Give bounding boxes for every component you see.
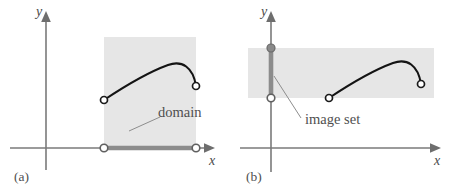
domain-right-endpoint [192, 144, 200, 152]
x-axis-label-a: x [208, 153, 216, 168]
panel-a: y x domain (a) [0, 0, 232, 195]
y-axis-arrowhead-b [266, 11, 276, 22]
y-axis-label-a: y [34, 4, 43, 19]
domain-annotation-label: domain [158, 104, 202, 120]
panel-b-plot: y x image set (b) [232, 0, 464, 195]
image-set-annotation-label: image set [305, 111, 360, 127]
panel-a-tag: (a) [14, 169, 29, 184]
curve-left-endpoint-b [326, 95, 333, 102]
curve-right-endpoint-a [193, 83, 200, 90]
figure-container: y x domain (a) [0, 0, 464, 195]
y-axis-label-b: y [259, 4, 268, 19]
panel-a-plot: y x domain (a) [0, 0, 232, 195]
image-set-top-endpoint [267, 44, 275, 52]
domain-shaded-band [104, 37, 196, 148]
curve-right-endpoint-b [418, 81, 425, 88]
curve-left-endpoint-a [101, 97, 108, 104]
x-axis-arrowhead-a [204, 143, 215, 153]
x-axis-arrowhead-b [430, 143, 441, 153]
image-set-bottom-endpoint [267, 94, 275, 102]
domain-left-endpoint [100, 144, 108, 152]
y-axis-arrowhead-a [41, 11, 51, 22]
x-axis-label-b: x [433, 153, 441, 168]
panel-b: y x image set (b) [232, 0, 464, 195]
panel-b-tag: (b) [246, 169, 262, 184]
